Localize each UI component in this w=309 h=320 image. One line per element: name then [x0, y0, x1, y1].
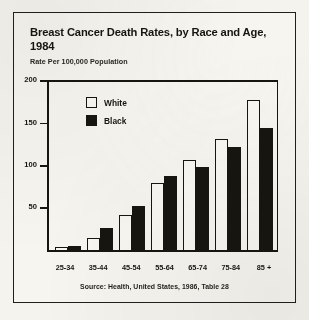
bar-group	[151, 176, 177, 250]
bar-group	[183, 160, 209, 250]
bar-group	[119, 206, 145, 250]
x-axis-labels: 25-3435-4445-5455-6465-7475-8485 +	[49, 263, 278, 272]
bar-black-7584	[228, 147, 241, 250]
y-axis-tick-label: 150	[24, 118, 37, 127]
bar-white-85+	[247, 100, 260, 250]
y-axis-tick: 50	[40, 207, 47, 209]
bar-black-3544	[100, 228, 113, 250]
legend-swatch-white-icon	[86, 97, 97, 108]
legend-label-black: Black	[104, 116, 126, 126]
y-axis-tick-label: 50	[29, 202, 37, 211]
y-axis-tick: 150	[40, 123, 47, 125]
bar-white-6574	[183, 160, 196, 250]
figure-border: Breast Cancer Death Rates, by Race and A…	[13, 12, 296, 303]
bar-white-4554	[119, 215, 132, 250]
legend-item-white: White	[86, 97, 127, 108]
bar-black-5564	[164, 176, 177, 250]
x-axis-label: 85 +	[251, 263, 277, 272]
x-axis-label: 65-74	[185, 263, 211, 272]
bar-white-3544	[87, 238, 100, 250]
x-axis-label: 35-44	[85, 263, 111, 272]
source-note: Source: Health, United States, 1986, Tab…	[14, 283, 295, 290]
plot-area: 50100150200 White Black	[47, 80, 278, 252]
y-axis-tick-label: 200	[24, 75, 37, 84]
bar-black-4554	[132, 206, 145, 250]
legend-label-white: White	[104, 98, 127, 108]
legend-swatch-black-icon	[86, 115, 97, 126]
bar-groups	[49, 82, 277, 250]
y-axis-tick: 100	[40, 165, 47, 167]
chart-title: Breast Cancer Death Rates, by Race and A…	[30, 25, 278, 53]
y-axis-tick-label: 100	[24, 160, 37, 169]
bar-black-85+	[260, 128, 273, 250]
figure-root: Breast Cancer Death Rates, by Race and A…	[0, 0, 309, 320]
legend-item-black: Black	[86, 115, 127, 126]
bar-black-2534	[68, 246, 81, 250]
bar-group	[247, 100, 273, 250]
bar-group	[87, 228, 113, 250]
chart-legend: White Black	[86, 97, 127, 133]
x-axis-label: 55-64	[151, 263, 177, 272]
axis-right-rule	[277, 80, 278, 251]
bar-group	[55, 246, 81, 250]
bar-group	[215, 139, 241, 250]
bar-black-6574	[196, 167, 209, 250]
bar-white-2534	[55, 247, 68, 250]
x-axis-label: 45-54	[118, 263, 144, 272]
chart-subtitle: Rate Per 100,000 Population	[30, 57, 270, 66]
bar-white-7584	[215, 139, 228, 250]
x-axis-label: 75-84	[218, 263, 244, 272]
bar-white-5564	[151, 183, 164, 250]
x-axis-label: 25-34	[52, 263, 78, 272]
y-axis-tick: 200	[40, 80, 47, 82]
x-axis-line	[47, 250, 278, 252]
